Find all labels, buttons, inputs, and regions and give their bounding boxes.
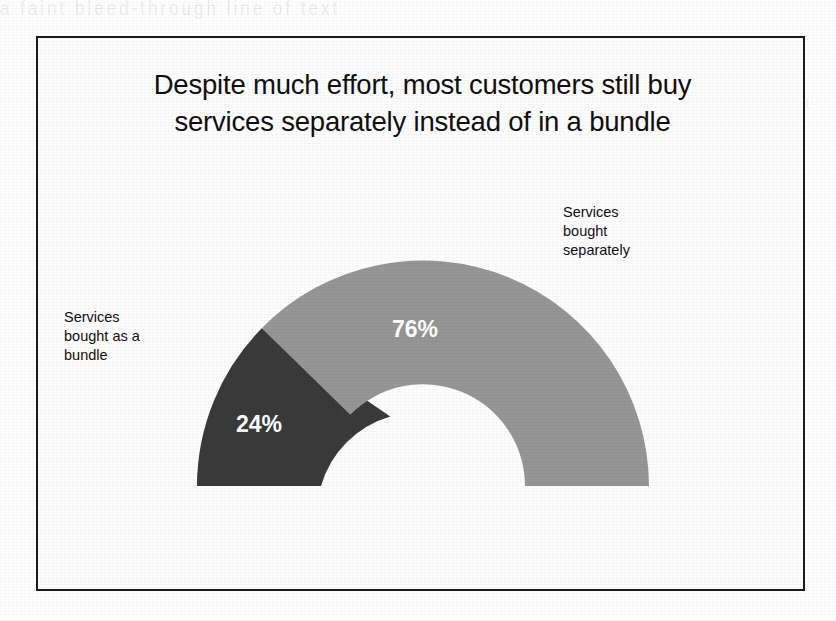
callout-label-bundle: Services bought as a bundle xyxy=(64,308,204,365)
callout-left-line-3: bundle xyxy=(64,346,204,365)
gauge-value-bundle: 24% xyxy=(236,411,282,437)
callout-label-separately: Services bought separately xyxy=(563,203,723,260)
callout-left-line-2: bought as a xyxy=(64,327,204,346)
callout-right-line-1: Services xyxy=(563,203,723,222)
callout-right-line-3: separately xyxy=(563,241,723,260)
callout-right-line-2: bought xyxy=(563,222,723,241)
scan-bleed-artifact-top: a faint bleed-through line of text xyxy=(0,0,836,32)
callout-left-line-1: Services xyxy=(64,308,204,327)
scan-bleed-text: a faint bleed-through line of text xyxy=(0,0,340,20)
chart-area: 76% 24% Services bought as a bundle Serv… xyxy=(38,38,807,593)
slide-frame: Despite much effort, most customers stil… xyxy=(36,36,805,591)
gauge-value-separately: 76% xyxy=(392,316,438,342)
